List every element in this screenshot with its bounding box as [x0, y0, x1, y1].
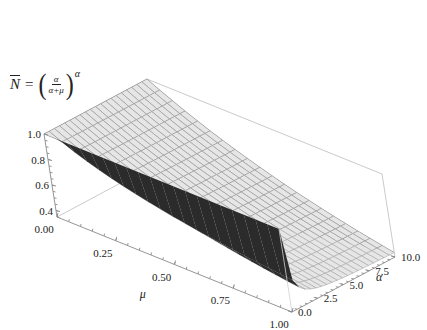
axis-line: [151, 253, 152, 256]
x-tick-label: 0.75: [211, 294, 231, 306]
axis-line: [44, 134, 47, 135]
axis-line: [382, 262, 385, 263]
axis-line: [245, 291, 246, 294]
axis-line: [53, 191, 56, 192]
y-tick-label: 10.0: [401, 251, 421, 263]
z-tick-label: 0.4: [39, 205, 53, 217]
axis-line: [92, 229, 93, 232]
axis-line: [50, 172, 53, 173]
axis-line: [116, 238, 117, 241]
axis-line: [356, 276, 359, 277]
x-tick-label: 0.00: [34, 223, 54, 235]
axis-line: [280, 305, 281, 308]
axis-line: [222, 281, 223, 284]
axis-line: [372, 267, 375, 268]
axis-line: [310, 300, 313, 301]
axis-line: [48, 160, 51, 161]
axis-line: [47, 153, 50, 154]
y-axis-title: α: [376, 270, 383, 284]
axis-line: [57, 217, 60, 218]
axis-line: [128, 243, 129, 246]
axis-line: [290, 311, 293, 312]
z-tick-label: 1.0: [27, 128, 41, 140]
axis-line: [315, 298, 318, 299]
box-edge: [382, 174, 395, 257]
axis-line: [393, 256, 396, 257]
axis-line: [198, 272, 199, 275]
axis-line: [210, 276, 211, 279]
axis-line: [175, 262, 176, 265]
surface-plot: 0.000.250.500.751.00μ0.02.55.07.510.0α0.…: [0, 0, 427, 330]
axis-line: [56, 211, 59, 212]
axis-line: [320, 295, 323, 296]
y-tick-label: 0.0: [298, 306, 312, 318]
axis-line: [326, 292, 329, 293]
axis-line: [186, 267, 187, 270]
axis-line: [55, 204, 58, 205]
axis-line: [367, 270, 370, 271]
axis-line: [104, 234, 105, 237]
x-tick-label: 0.25: [93, 247, 113, 259]
axis-line: [362, 273, 365, 274]
axis-line: [139, 248, 140, 251]
y-tick-label: 2.5: [324, 292, 338, 304]
axis-line: [300, 306, 303, 307]
axis-line: [387, 259, 390, 260]
z-tick-label: 0.8: [31, 154, 45, 166]
axis-line: [51, 179, 54, 180]
x-axis-title: μ: [139, 287, 146, 301]
axis-line: [305, 303, 308, 304]
axis-line: [257, 295, 258, 298]
axis-line: [45, 140, 48, 141]
axis-line: [46, 147, 49, 148]
axis-line: [295, 309, 298, 310]
axis-line: [346, 281, 349, 282]
axis-line: [54, 198, 57, 199]
axis-line: [377, 265, 380, 266]
y-tick-label: 5.0: [350, 279, 364, 291]
axis-line: [269, 300, 270, 303]
axis-line: [163, 257, 164, 260]
axis-line: [81, 224, 82, 227]
axis-line: [341, 284, 344, 285]
axis-line: [49, 166, 52, 167]
axis-line: [331, 289, 334, 290]
axis-line: [233, 286, 234, 289]
axis-line: [336, 287, 339, 288]
x-tick-label: 1.00: [269, 318, 289, 330]
x-tick-label: 0.50: [152, 271, 172, 283]
z-tick-label: 0.6: [35, 179, 49, 191]
axis-line: [69, 219, 70, 222]
axis-line: [52, 185, 55, 186]
axis-line: [351, 278, 354, 279]
